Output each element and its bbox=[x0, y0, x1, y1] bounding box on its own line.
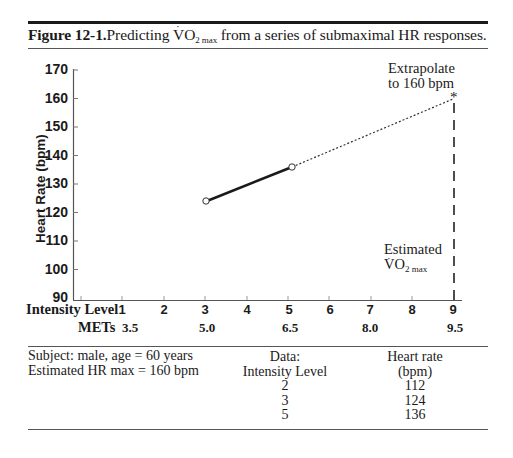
y-tick-label: 160 bbox=[28, 90, 68, 106]
table-cell: 3 bbox=[230, 394, 340, 409]
table-cell: 136 bbox=[365, 408, 465, 423]
extrapolate-annotation: Extrapolate to 160 bpm bbox=[388, 61, 455, 91]
mets-tick-label: 3.5 bbox=[115, 320, 145, 336]
extrapolated-point-asterisk: * bbox=[450, 89, 458, 106]
x-axis-row1-label: Intensity Level bbox=[26, 301, 118, 318]
estimated-hrmax-line: Estimated HR max = 160 bpm bbox=[28, 364, 199, 379]
col-header: Data: bbox=[230, 350, 340, 365]
mets-tick-label: 8.0 bbox=[355, 320, 385, 336]
estimated-vo2max-annotation: Estimated ·VO2 max bbox=[384, 242, 442, 274]
x-tick-label: 8 bbox=[402, 302, 422, 317]
mets-tick-label: 5.0 bbox=[192, 320, 222, 336]
x-tick-marks bbox=[81, 296, 412, 300]
y-tick-label: 150 bbox=[28, 118, 68, 134]
y-tick-label: 170 bbox=[28, 61, 68, 77]
subject-line: Subject: male, age = 60 years bbox=[28, 349, 199, 364]
measured-solid-line bbox=[207, 167, 292, 201]
table-cell: 5 bbox=[230, 408, 340, 423]
table-col-heart-rate: Heart rate (bpm) 112 124 136 bbox=[365, 350, 465, 423]
mets-tick-label: 9.5 bbox=[440, 320, 470, 336]
y-axis-title: Heart Rate (bpm) bbox=[33, 134, 48, 243]
table-cell: 2 bbox=[230, 379, 340, 394]
table-col-intensity: Data: Intensity Level 2 3 5 bbox=[230, 350, 340, 423]
x-tick-label: 6 bbox=[320, 302, 340, 317]
mets-tick-label: 6.5 bbox=[275, 320, 305, 336]
data-point-level-5 bbox=[289, 164, 295, 170]
table-cell: 124 bbox=[365, 394, 465, 409]
x-tick-label: 3 bbox=[195, 302, 215, 317]
y-tick-label: 100 bbox=[28, 261, 68, 277]
x-tick-label: 5 bbox=[279, 302, 299, 317]
x-tick-label: 9 bbox=[443, 302, 463, 317]
subject-info: Subject: male, age = 60 years Estimated … bbox=[28, 349, 199, 378]
col-header: Heart rate bbox=[365, 350, 465, 365]
x-axis-row2-label: METs bbox=[78, 319, 115, 336]
x-tick-label: 4 bbox=[237, 302, 257, 317]
x-tick-label: 7 bbox=[360, 302, 380, 317]
col-header: (bpm) bbox=[365, 365, 465, 380]
x-tick-label: 1 bbox=[112, 302, 132, 317]
col-header: Intensity Level bbox=[230, 365, 340, 380]
extrapolation-dotted-line bbox=[292, 99, 453, 167]
x-tick-label: 2 bbox=[154, 302, 174, 317]
table-cell: 112 bbox=[365, 379, 465, 394]
data-point-level-3 bbox=[203, 198, 209, 204]
